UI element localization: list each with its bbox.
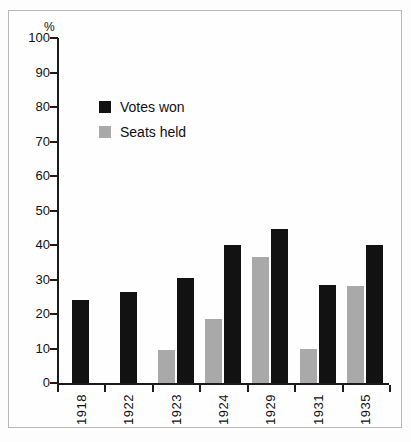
bar-seats-held (300, 349, 317, 384)
gray-square-icon (99, 126, 111, 138)
legend-item-votes-won: Votes won (99, 100, 186, 114)
legend-item-label: Seats held (120, 125, 186, 139)
bar-seats-held (347, 286, 364, 383)
bar-votes-won (319, 285, 336, 383)
x-tick-mark (199, 385, 201, 392)
x-tick-label: 1935 (358, 394, 373, 425)
chart-legend: Votes won Seats held (99, 100, 186, 150)
bar-seats-held (252, 257, 269, 383)
legend-item-seats-held: Seats held (99, 125, 186, 139)
x-tick-label: 1923 (169, 394, 184, 425)
bar-votes-won (366, 245, 383, 383)
bar-seats-held (205, 319, 222, 383)
bar-votes-won (120, 292, 137, 383)
x-tick-label: 1924 (216, 394, 231, 425)
legend-item-label: Votes won (120, 100, 185, 114)
bar-votes-won (271, 229, 288, 383)
bar-votes-won (72, 300, 89, 383)
x-tick-mark (104, 385, 106, 392)
black-square-icon (99, 101, 111, 113)
bars-layer (0, 0, 411, 383)
x-tick-label: 1931 (311, 394, 326, 425)
bar-seats-held (158, 350, 175, 383)
x-axis-line (57, 383, 389, 385)
bar-votes-won (177, 278, 194, 383)
x-tick-mark (389, 385, 391, 392)
chart-page: % 0102030405060708090100 191819221923192… (0, 0, 411, 442)
bar-chart: % 0102030405060708090100 191819221923192… (0, 0, 411, 442)
x-tick-mark (57, 385, 59, 392)
x-tick-label: 1918 (74, 394, 89, 425)
x-tick-mark (342, 385, 344, 392)
x-tick-label: 1922 (121, 394, 136, 425)
x-tick-mark (152, 385, 154, 392)
bar-votes-won (224, 245, 241, 383)
x-tick-mark (247, 385, 249, 392)
x-tick-label: 1929 (263, 394, 278, 425)
x-tick-mark (294, 385, 296, 392)
